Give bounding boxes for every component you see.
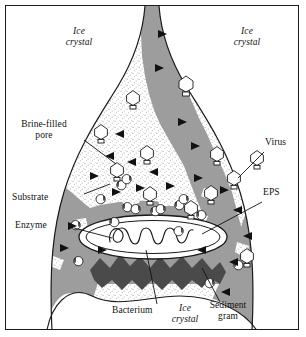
label-brine-filled-pore: Brine-filled pore (11, 119, 77, 141)
label-ice-crystal-bottom-line2: crystal (163, 314, 207, 325)
label-bacterium: Bacterium (112, 305, 152, 316)
label-ice-crystal-top-left-line1: Ice (50, 26, 108, 37)
label-brine-filled-pore-line2: pore (11, 130, 77, 141)
label-ice-crystal-top-left-line2: crystal (50, 37, 108, 48)
diagram-artwork (6, 6, 299, 330)
label-ice-crystal-bottom-line1: Ice (163, 303, 207, 314)
label-ice-crystal-top-left: Ice crystal (50, 26, 108, 48)
label-ice-crystal-bottom: Ice crystal (163, 303, 207, 325)
label-sediment-grain-line2: gram (202, 311, 254, 322)
label-sediment-grain: Sediment gram (202, 300, 254, 322)
label-ice-crystal-top-right-line2: crystal (218, 37, 276, 48)
figure-root: Ice crystal Ice crystal Brine-filled por… (0, 0, 306, 337)
label-eps: EPS (263, 187, 280, 198)
label-sediment-grain-line1: Sediment (202, 300, 254, 311)
label-enzyme: Enzyme (15, 220, 47, 231)
label-ice-crystal-top-right: Ice crystal (218, 26, 276, 48)
label-virus: Virus (265, 137, 286, 148)
label-brine-filled-pore-line1: Brine-filled (11, 119, 77, 130)
figure-frame: Ice crystal Ice crystal Brine-filled por… (5, 5, 299, 330)
label-substrate: Substrate (12, 192, 48, 203)
label-ice-crystal-top-right-line1: Ice (218, 26, 276, 37)
